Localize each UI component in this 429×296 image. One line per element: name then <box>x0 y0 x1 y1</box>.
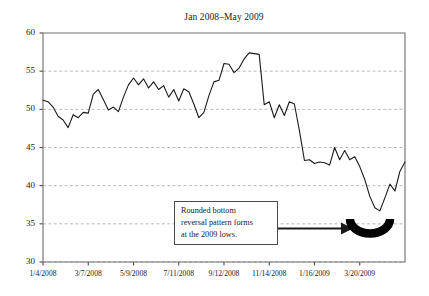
annotation-line-1: Rounded bottom <box>181 205 272 217</box>
x-tick-label-3: 7/11/2008 <box>163 269 194 278</box>
y-tick-label-40: 40 <box>9 180 35 190</box>
data-series-line <box>43 53 405 211</box>
x-tick-label-0: 1/4/2008 <box>29 269 56 278</box>
y-tick-label-35: 35 <box>9 218 35 228</box>
annotation-line-2: reversal pattern forms <box>181 217 272 229</box>
annotation-callout-box: Rounded bottom reversal pattern forms at… <box>174 201 278 245</box>
y-tick-label-45: 45 <box>9 142 35 152</box>
annotation-arrow <box>278 223 353 235</box>
rounded-bottom-arc-marker <box>350 219 390 233</box>
y-tick-label-30: 30 <box>9 256 35 266</box>
x-tick-label-4: 9/12/2008 <box>209 269 240 278</box>
x-tick-label-6: 1/16/2009 <box>299 269 330 278</box>
y-tick-label-60: 60 <box>9 27 35 37</box>
chart-plot-svg <box>0 0 429 296</box>
y-tick-label-50: 50 <box>9 103 35 113</box>
x-tick-label-2: 5/9/2008 <box>120 269 147 278</box>
chart-container: Jan 2008–May 2009 30354045505560 1/4/200… <box>0 0 429 296</box>
annotation-line-3: at the 2009 lows. <box>181 229 272 241</box>
y-tick-label-55: 55 <box>9 65 35 75</box>
x-tick-label-7: 3/20/2009 <box>344 269 375 278</box>
x-tick-label-1: 3/7/2008 <box>75 269 102 278</box>
x-tick-label-5: 11/14/2008 <box>252 269 286 278</box>
